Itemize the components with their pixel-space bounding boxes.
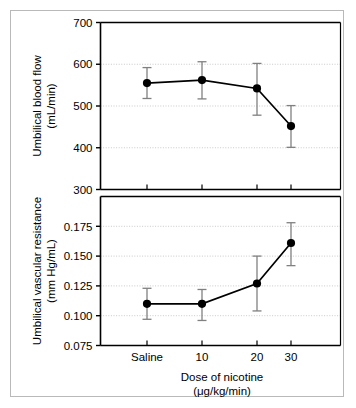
x-axis-title-line-1: (μg/kg/min)	[193, 385, 251, 397]
y-tick-label-bottom-3: 0.150	[64, 250, 93, 262]
data-point-bottom-3[interactable]	[287, 239, 295, 247]
y-tick-label-bottom-4: 0.175	[64, 221, 93, 233]
figure-root: 3004005006007000.0750.1000.1250.1500.175…	[0, 0, 356, 408]
y-axis-title-bottom-line-0: Umbilical vascular resistance	[31, 197, 43, 345]
y-axis-title-top: Umbilical blood flow(mL/min)	[31, 54, 57, 156]
y-tick-label-top-3: 600	[73, 58, 92, 70]
data-point-top-3[interactable]	[287, 122, 295, 130]
y-tick-label-top-0: 300	[73, 184, 92, 196]
x-tick-label-1: 10	[196, 351, 209, 363]
dual-panel-chart: 3004005006007000.0750.1000.1250.1500.175…	[0, 0, 356, 408]
data-point-bottom-0[interactable]	[143, 300, 151, 308]
data-line-bottom	[147, 243, 291, 304]
x-axis-title-line-0: Dose of nicotine	[181, 371, 263, 383]
data-point-bottom-1[interactable]	[198, 300, 206, 308]
data-point-top-2[interactable]	[253, 84, 261, 92]
y-axis-title-top-line-1: (mL/min)	[45, 83, 57, 129]
y-tick-label-top-1: 400	[73, 142, 92, 154]
y-axis-title-bottom: Umbilical vascular resistance(mm Hg/mL)	[31, 197, 57, 345]
y-tick-label-top-4: 700	[73, 17, 92, 29]
data-point-top-1[interactable]	[198, 76, 206, 84]
y-tick-label-top-2: 500	[73, 100, 92, 112]
y-axis-title-top-line-0: Umbilical blood flow	[31, 54, 43, 156]
data-point-top-0[interactable]	[143, 79, 151, 87]
data-point-bottom-2[interactable]	[253, 279, 261, 287]
x-tick-label-3: 30	[285, 351, 298, 363]
y-axis-title-bottom-line-1: (mm Hg/mL)	[45, 239, 57, 303]
x-tick-label-2: 20	[251, 351, 264, 363]
y-tick-label-bottom-0: 0.075	[64, 340, 93, 352]
data-line-top	[147, 80, 291, 126]
y-tick-label-bottom-1: 0.100	[64, 310, 93, 322]
y-tick-label-bottom-2: 0.125	[64, 280, 93, 292]
x-tick-label-0: Saline	[131, 351, 163, 363]
